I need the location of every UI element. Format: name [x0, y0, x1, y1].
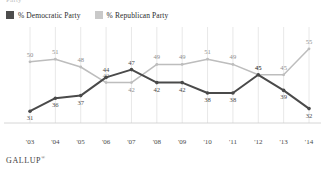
data-label: 50: [27, 51, 34, 58]
legend-swatch-republican-icon: [95, 11, 103, 19]
source-text: GALLUP: [6, 156, 41, 165]
data-point: [256, 73, 260, 77]
chart-plot-area: 5051484242494951494545553136374447424238…: [0, 27, 325, 139]
legend-item-republican[interactable]: % Republican Party: [95, 11, 169, 20]
data-point: [155, 81, 159, 85]
source-attribution: GALLUP®: [6, 155, 46, 165]
data-label: 42: [128, 86, 135, 93]
data-point: [54, 58, 57, 61]
data-label: 49: [154, 53, 161, 60]
data-label: 48: [77, 56, 84, 63]
data-point: [206, 91, 210, 95]
data-point: [130, 68, 134, 72]
x-tick-label: '13: [279, 138, 287, 146]
legend-label-democratic: % Democratic Party: [18, 11, 81, 20]
x-tick-label: '08: [153, 138, 161, 146]
data-label: 36: [52, 101, 59, 108]
data-point: [282, 89, 286, 93]
x-tick-label: '09: [178, 138, 186, 146]
data-label: 49: [230, 53, 237, 60]
x-tick-label: '14: [305, 138, 313, 146]
data-label: 45: [255, 64, 262, 71]
x-tick-label: '05: [77, 138, 85, 146]
data-label: 38: [230, 96, 237, 103]
legend-label-republican: % Republican Party: [107, 11, 169, 20]
data-label: 49: [179, 53, 186, 60]
x-tick-label: '10: [203, 138, 211, 146]
chart-figure: Party % Democratic Party % Republican Pa…: [0, 0, 325, 173]
x-tick-label: '07: [127, 138, 135, 146]
data-point: [79, 66, 82, 69]
data-point: [181, 63, 184, 66]
x-tick-label: '04: [51, 138, 59, 146]
data-label: 31: [27, 114, 34, 121]
data-label: 37: [77, 99, 84, 106]
line-chart-svg: 5051484242494951494545553136374447424238…: [0, 27, 325, 139]
data-label: 55: [306, 38, 313, 45]
data-point: [130, 81, 133, 84]
data-point: [232, 63, 235, 66]
data-point: [155, 63, 158, 66]
data-label: 38: [204, 96, 211, 103]
data-point: [29, 60, 32, 63]
data-label: 42: [179, 86, 186, 93]
source-trademark-icon: ®: [41, 155, 45, 160]
series-line-democratic: [30, 70, 309, 112]
x-tick-label: '12: [254, 138, 262, 146]
legend-item-democratic[interactable]: % Democratic Party: [6, 11, 81, 20]
x-tick-label: '06: [102, 138, 110, 146]
data-point: [28, 109, 32, 113]
data-point: [79, 94, 83, 98]
data-point: [231, 91, 235, 95]
data-point: [307, 107, 311, 111]
data-point: [105, 81, 108, 84]
data-point: [54, 96, 58, 100]
data-label: 47: [128, 59, 135, 66]
x-tick-label: '11: [229, 138, 237, 146]
data-point: [104, 76, 108, 80]
data-label: 51: [204, 48, 211, 55]
data-label: 51: [52, 48, 59, 55]
cropped-title-remnant: Party: [6, 0, 22, 3]
data-label: 42: [154, 86, 161, 93]
data-label: 32: [306, 112, 313, 119]
chart-legend: % Democratic Party % Republican Party: [6, 9, 168, 21]
x-tick-label: '03: [26, 138, 34, 146]
data-point: [308, 47, 311, 50]
series-line-republican: [30, 49, 309, 83]
data-label: 39: [280, 93, 287, 100]
data-label: 44: [103, 66, 110, 73]
data-point: [180, 81, 184, 85]
legend-swatch-democratic-icon: [6, 11, 14, 19]
data-label: 45: [280, 64, 287, 71]
data-point: [282, 73, 285, 76]
x-axis-tick-labels: '03'04'05'06'07'08'09'10'11'12'13'14: [0, 138, 325, 152]
data-point: [206, 58, 209, 61]
